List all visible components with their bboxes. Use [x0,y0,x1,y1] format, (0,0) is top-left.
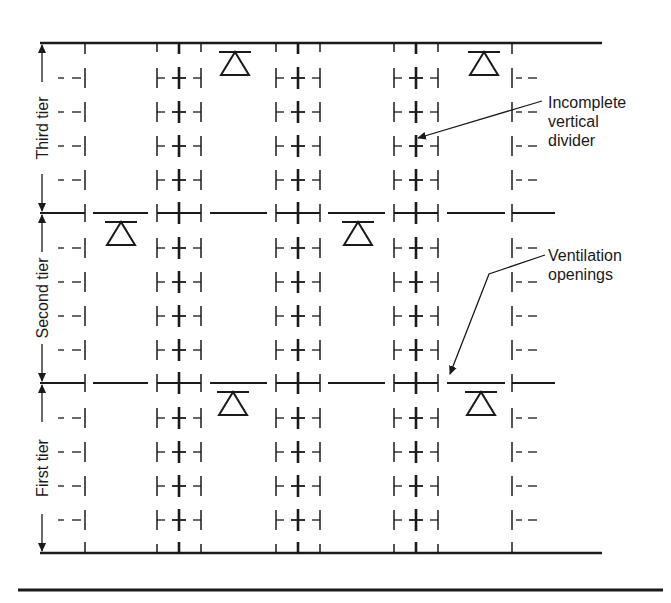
callout-incomplete-divider: Incompleteverticaldivider [548,94,626,149]
callout-ventilation-openings: Ventilationopenings [548,247,622,283]
tier-stacking-figure: Third tierSecond tierFirst tier Incomple… [0,0,671,603]
callouts: IncompleteverticaldividerVentilationopen… [418,94,626,374]
tier-label: Second tier [34,257,51,339]
tier-label: First tier [34,438,51,496]
tier-label: Third tier [34,96,51,160]
tier-labels: Third tierSecond tierFirst tier [34,45,51,551]
stacking-diagram: Third tierSecond tierFirst tier Incomple… [0,0,671,603]
